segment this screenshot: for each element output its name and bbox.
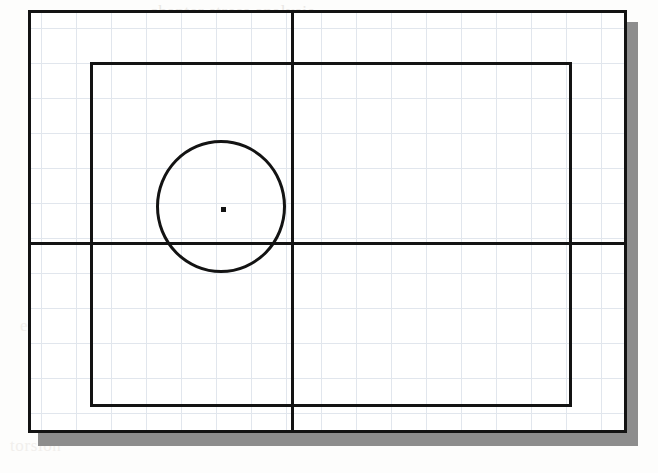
circle-center-mark [221,207,226,212]
engineering-figure [0,0,658,473]
outer-frame-rectangle [28,10,627,433]
scanned-page: chapter stress analysis discussion of mi… [0,0,658,473]
